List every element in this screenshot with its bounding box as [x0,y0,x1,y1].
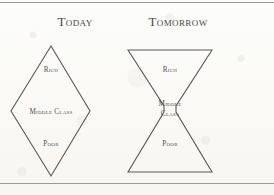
hourglass-label-rich: Rich [163,66,178,74]
hourglass-label-middle: Middle [159,100,182,108]
diamond-label-rich: Rich [44,66,59,74]
diagram-canvas: Rich Middle Class Poor Rich Middle Class… [0,0,274,195]
diamond-label-poor: Poor [43,140,59,148]
hourglass-label-poor: Poor [162,140,178,148]
diamond-label-middle-class: Middle Class [29,108,72,116]
hourglass-label-class: Class [161,110,179,118]
society-shape-figure: Today Tomorrow Rich Middle Class Poor Ri… [0,0,274,195]
